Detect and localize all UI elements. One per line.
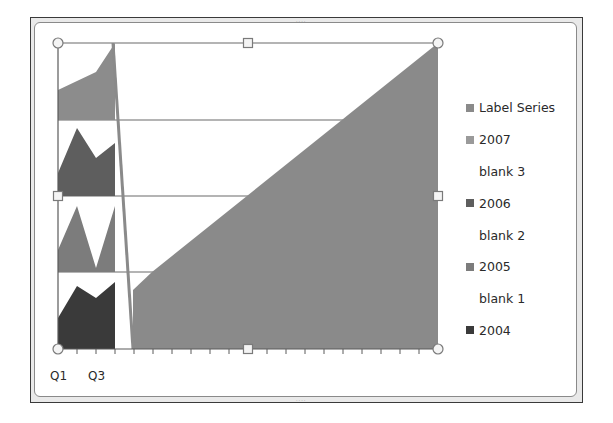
legend-label: blank 2 bbox=[479, 228, 525, 243]
legend-label: 2006 bbox=[479, 196, 511, 211]
legend-swatch-icon bbox=[466, 199, 474, 207]
legend-swatch-icon bbox=[466, 167, 474, 175]
legend-swatch-icon bbox=[466, 263, 474, 271]
legend-swatch-icon bbox=[466, 231, 474, 239]
legend-item-2005[interactable]: 2005 bbox=[466, 251, 576, 283]
legend[interactable]: Label Series 2007 blank 3 2006 blank 2 2… bbox=[466, 92, 576, 346]
x-axis-label-q3: Q3 bbox=[88, 369, 105, 383]
legend-item-2006[interactable]: 2006 bbox=[466, 187, 576, 219]
series-2005-area[interactable] bbox=[58, 206, 115, 272]
legend-label: 2004 bbox=[479, 323, 511, 338]
selection-handle-bottom[interactable] bbox=[244, 345, 253, 354]
x-axis-label-q1: Q1 bbox=[50, 369, 67, 383]
selection-handle-bottom-right[interactable] bbox=[433, 344, 443, 354]
selection-handle-top[interactable] bbox=[244, 39, 253, 48]
legend-label: Label Series bbox=[479, 100, 555, 115]
selection-handle-bottom-left[interactable] bbox=[53, 344, 63, 354]
legend-item-label-series[interactable]: Label Series bbox=[466, 92, 576, 124]
legend-swatch-icon bbox=[466, 104, 474, 112]
legend-item-blank-1[interactable]: blank 1 bbox=[466, 283, 576, 315]
series-2006-area[interactable] bbox=[58, 128, 115, 196]
legend-label: 2005 bbox=[479, 259, 511, 274]
series-2007-area[interactable] bbox=[58, 43, 115, 120]
legend-swatch-icon bbox=[466, 295, 474, 303]
legend-item-2007[interactable]: 2007 bbox=[466, 124, 576, 156]
legend-label: 2007 bbox=[479, 132, 511, 147]
selection-handle-left[interactable] bbox=[54, 192, 63, 201]
legend-swatch-icon bbox=[466, 136, 474, 144]
legend-label: blank 3 bbox=[479, 164, 525, 179]
selection-handle-top-right[interactable] bbox=[433, 38, 443, 48]
series-2004-area[interactable] bbox=[58, 282, 115, 349]
legend-label: blank 1 bbox=[479, 291, 525, 306]
legend-swatch-icon bbox=[466, 326, 474, 334]
selection-handle-top-left[interactable] bbox=[53, 38, 63, 48]
legend-item-blank-2[interactable]: blank 2 bbox=[466, 219, 576, 251]
selection-handle-right[interactable] bbox=[434, 192, 443, 201]
legend-item-blank-3[interactable]: blank 3 bbox=[466, 156, 576, 188]
legend-item-2004[interactable]: 2004 bbox=[466, 315, 576, 347]
